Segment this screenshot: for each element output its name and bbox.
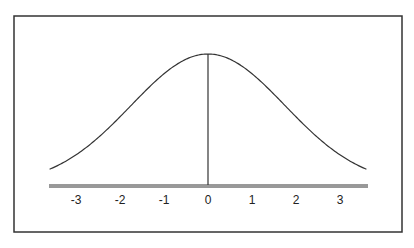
x-tick-label: -1 [159, 193, 170, 207]
x-tick-label: 2 [293, 193, 300, 207]
x-tick-label: 3 [337, 193, 344, 207]
x-tick-label: 1 [249, 193, 256, 207]
x-tick-label: -2 [115, 193, 126, 207]
x-tick-label: 0 [205, 193, 212, 207]
bell-curve-chart: -3-2-10123 [0, 0, 414, 248]
x-tick-label: -3 [71, 193, 82, 207]
